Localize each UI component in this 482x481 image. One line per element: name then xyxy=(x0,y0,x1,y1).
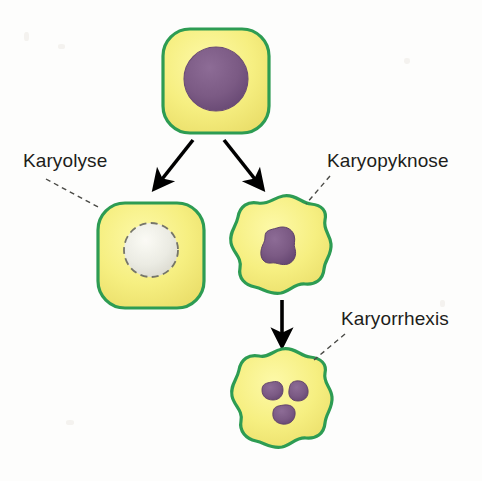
label-karyorrhexis: Karyorrhexis xyxy=(341,308,449,330)
cell-death-diagram: Karyolyse Karyopyknose Karyorrhexis xyxy=(0,0,482,481)
cell-nucleus-condensed xyxy=(261,227,296,265)
nuclear-fragment xyxy=(262,381,283,400)
diagram-canvas xyxy=(0,0,482,481)
label-karyopyknosis: Karyopyknose xyxy=(327,150,449,172)
nuclear-fragment xyxy=(289,381,308,401)
nuclear-fragment xyxy=(273,405,295,424)
label-karyolysis: Karyolyse xyxy=(23,150,107,172)
normal-cell xyxy=(163,29,269,133)
cell-nucleus xyxy=(184,47,248,111)
karyolysis-cell xyxy=(98,203,204,308)
leader-karyolysis xyxy=(46,179,100,208)
arrow-to-karyolysis xyxy=(155,140,193,188)
karyorrhexis-cell xyxy=(232,349,332,448)
karyopyknosis-cell xyxy=(231,196,331,294)
cell-membrane-wavy xyxy=(232,349,332,448)
arrow-to-karyopyknosis xyxy=(224,140,262,188)
leader-karyopyknosis xyxy=(306,176,330,204)
leader-karyorrhexis xyxy=(314,334,345,360)
cell-nucleus-dissolving xyxy=(124,223,178,277)
